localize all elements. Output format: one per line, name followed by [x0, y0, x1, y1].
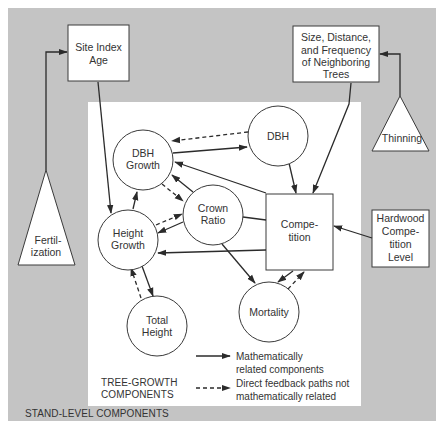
neighbors-label-2: and Frequency — [301, 44, 372, 56]
tree-growth-caption-2: COMPONENTS — [101, 389, 174, 400]
fertilization-label-2: ization — [31, 246, 62, 258]
height-growth-node: Height Growth — [98, 210, 158, 270]
neighbors-label-3: of Neighboring — [302, 56, 370, 68]
legend-dashed-label-1: Direct feedback paths not — [236, 378, 350, 389]
mortality-node: Mortality — [239, 282, 299, 342]
stand-level-caption: STAND-LEVEL COMPONENTS — [25, 408, 169, 419]
tree-growth-caption-1: TREE-GROWTH — [101, 377, 178, 388]
total-height-label-1: Total — [146, 314, 168, 326]
site-index-label: Site Index — [75, 41, 122, 53]
neighbors-label-1: Size, Distance, — [301, 31, 371, 43]
mortality-label: Mortality — [249, 306, 289, 318]
legend-dashed-label-2: mathematically related — [236, 391, 336, 402]
tree-growth-diagram: Site Index Age Size, Distance, and Frequ… — [0, 0, 448, 434]
dbh-growth-label-2: Growth — [126, 159, 160, 171]
total-height-label-2: Height — [142, 326, 172, 338]
height-growth-label-1: Height — [113, 227, 143, 239]
legend-solid-label-1: Mathematically — [236, 351, 303, 362]
hardwood-label-3: tition — [389, 238, 411, 250]
crown-ratio-label-1: Crown — [198, 202, 229, 214]
competition-label-1: Compe- — [281, 218, 319, 230]
hardwood-label-1: Hardwood — [377, 212, 425, 224]
thinning-label: Thinning — [382, 132, 422, 144]
competition-label-2: tition — [288, 231, 310, 243]
neighboring-trees-box: Size, Distance, and Frequency of Neighbo… — [293, 26, 379, 82]
crown-ratio-node: Crown Ratio — [183, 185, 243, 245]
competition-box: Compe- tition — [266, 194, 333, 270]
dbh-label: DBH — [267, 130, 289, 142]
hardwood-label-4: Level — [388, 251, 413, 263]
dbh-growth-node: DBH Growth — [113, 130, 173, 190]
dbh-node: DBH — [248, 106, 308, 166]
fertilization-label-1: Fertil- — [35, 234, 62, 246]
legend-solid-label-2: related components — [236, 364, 324, 375]
hardwood-competition-box: Hardwood Compe- tition Level — [372, 210, 429, 267]
age-label: Age — [89, 54, 108, 66]
hardwood-label-2: Compe- — [382, 225, 420, 237]
site-index-age-box: Site Index Age — [68, 25, 129, 81]
crown-ratio-label-2: Ratio — [201, 214, 226, 226]
total-height-node: Total Height — [127, 296, 187, 356]
neighbors-label-4: Trees — [323, 68, 349, 80]
height-growth-label-2: Growth — [111, 239, 145, 251]
dbh-growth-label-1: DBH — [132, 147, 154, 159]
